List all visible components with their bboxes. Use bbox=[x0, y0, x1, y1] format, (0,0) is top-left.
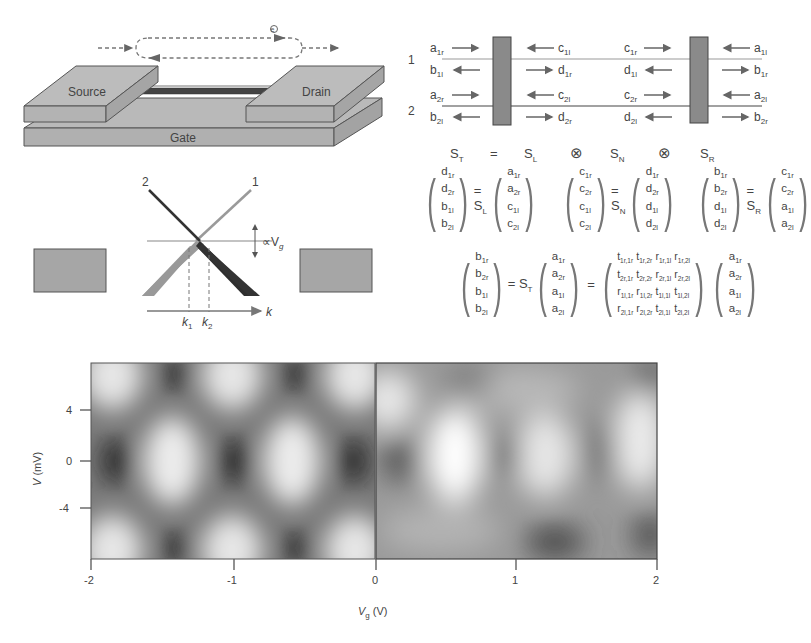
label-a1r: a1r bbox=[430, 41, 444, 57]
symbol-SL: SL bbox=[524, 146, 537, 164]
transmission-matrix: t1r,1r t1r,2r r1r,1l r1r,2l t2r,1r t2r,2… bbox=[617, 250, 690, 318]
label-c2r: c2r bbox=[624, 88, 637, 104]
vg-shift-label: ∝Vg bbox=[262, 235, 284, 251]
symbol-SR: SR bbox=[700, 146, 714, 164]
heatmap-measurement bbox=[360, 363, 666, 559]
label-d1l: d1l bbox=[624, 63, 637, 79]
band-1-label: 1 bbox=[252, 175, 259, 189]
symbol-SN: SN bbox=[610, 146, 624, 164]
source-label: Source bbox=[68, 85, 106, 99]
label-b1l: b1l bbox=[430, 63, 443, 79]
left-barrier bbox=[493, 37, 511, 125]
label-d2r: d2r bbox=[558, 110, 572, 126]
vector-lhs-T: b1r b2r b1l b2l bbox=[475, 250, 488, 319]
device-schematic: e Gate Source Drain bbox=[20, 10, 400, 160]
vector-rhs-L: a1r a2r c1l c2l bbox=[507, 165, 520, 234]
y-tick-0: 0 bbox=[66, 455, 72, 467]
drain-label: Drain bbox=[302, 85, 331, 99]
y-tick-minus4: -4 bbox=[59, 502, 69, 514]
k2-label: k2 bbox=[202, 315, 213, 330]
channel-2-label: 2 bbox=[408, 104, 415, 118]
label-b1r: b1r bbox=[754, 63, 768, 79]
band-2-label: 2 bbox=[142, 175, 149, 189]
left-lead bbox=[34, 249, 106, 292]
heatmap-simulation bbox=[82, 340, 385, 585]
x-tick-2: 2 bbox=[653, 574, 659, 586]
equation-SR: ( b1r b2r d1l d2l ) = SR ( c1r c2r a1l a… bbox=[695, 165, 811, 234]
electron-label: e bbox=[271, 26, 275, 33]
x-tick-0: 0 bbox=[372, 574, 378, 586]
composition-equation: ST = SL ⊗ SN ⊗ SR bbox=[450, 146, 790, 166]
right-lead bbox=[300, 249, 372, 292]
label-c1r: c1r bbox=[624, 41, 637, 57]
x-tick-minus2: -2 bbox=[84, 574, 94, 586]
label-b2r: b2r bbox=[754, 110, 768, 126]
equation-ST: ( b1r b2r b1l b2l ) = ST ( a1r a2r a1l a… bbox=[456, 250, 761, 319]
gate-label: Gate bbox=[170, 131, 196, 145]
dispersion-diagram: 2 1 ∝Vg k1 k2 k bbox=[20, 160, 400, 330]
symbol-ST: ST bbox=[450, 146, 464, 164]
label-c1l: c1l bbox=[558, 41, 570, 57]
right-barrier bbox=[690, 37, 708, 123]
dispersion-graphic: 2 1 ∝Vg k1 k2 k bbox=[20, 160, 400, 330]
x-tick-1: 1 bbox=[512, 574, 518, 586]
label-c2l: c2l bbox=[558, 88, 570, 104]
device-schematic-graphic: e Gate Source Drain bbox=[20, 10, 400, 160]
conductance-chart: 4 0 -4 -2 -1 0 1 2 V (mV) Vg (V) bbox=[0, 330, 802, 643]
x-tick-minus1: -1 bbox=[227, 574, 237, 586]
otimes-1: ⊗ bbox=[570, 144, 583, 162]
equals-sign-2: = bbox=[587, 277, 595, 292]
equation-SN: ( c1r c2r c1l c2l ) = SN ( d1r d2r d1l d… bbox=[560, 165, 678, 234]
label-d1r: d1r bbox=[558, 63, 572, 79]
vector-rhs-R: c1r c2r a1l a2l bbox=[781, 165, 793, 234]
y-tick-4: 4 bbox=[66, 404, 72, 416]
vector-lhs-N: c1r c2r c1l c2l bbox=[579, 165, 591, 234]
otimes-2: ⊗ bbox=[658, 144, 671, 162]
channel-1-label: 1 bbox=[408, 53, 415, 67]
label-a1l: a1l bbox=[754, 41, 767, 57]
vector-a-T: a1r a2r a1l a2l bbox=[552, 250, 565, 319]
equation-SL: ( d1r d2r b1l b2l ) = SL ( a1r a2r c1l c… bbox=[422, 165, 540, 234]
label-a2l: a2l bbox=[754, 88, 767, 104]
k1-label: k1 bbox=[182, 315, 193, 330]
equals-sign: = bbox=[490, 146, 498, 161]
vector-lhs-L: d1r d2r b1l b2l bbox=[441, 165, 454, 234]
vector-rhs-N: d1r d2r d1l d2l bbox=[646, 165, 659, 234]
conductance-map-graphic: 4 0 -4 -2 -1 0 1 2 V (mV) Vg (V) bbox=[0, 330, 802, 643]
vector-lhs-R: b1r b2r d1l d2l bbox=[714, 165, 727, 234]
k-axis-label: k bbox=[266, 305, 273, 319]
label-b2l: b2l bbox=[430, 110, 443, 126]
vector-a-T-2: a1r a2r a1l a2l bbox=[729, 250, 742, 319]
equation-row: ( d1r d2r b1l b2l ) = SL ( a1r a2r c1l c… bbox=[422, 165, 811, 234]
x-axis-label: Vg (V) bbox=[358, 605, 388, 620]
label-d2l: d2l bbox=[624, 110, 637, 126]
y-axis-label: V (mV) bbox=[31, 452, 43, 486]
scattering-schematic-graphic: 1 2 a1r b1l a2r b2l c1l d1r c2l d2r c1r bbox=[400, 30, 802, 130]
scattering-schematic: 1 2 a1r b1l a2r b2l c1l d1r c2l d2r c1r bbox=[400, 30, 802, 130]
label-a2r: a2r bbox=[430, 88, 444, 104]
